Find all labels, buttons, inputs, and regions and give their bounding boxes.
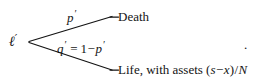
root-node-prime: ′: [15, 32, 18, 45]
death-probability-label: p′: [67, 9, 76, 24]
outcome-life-label: Life, with assets (s−x)/N: [118, 63, 247, 76]
outcome-life-prefix: Life, with assets: [118, 62, 206, 77]
death-probability-prime: ′: [74, 8, 77, 19]
life-probability-rhs-prime: ′: [102, 39, 105, 50]
life-probability-equation: q′=1−p′: [57, 40, 105, 55]
life-probability-rhs-var: p: [95, 41, 102, 56]
death-probability-var: p: [67, 10, 74, 25]
root-node-symbol: ℓ′: [9, 33, 17, 48]
equals-sign: =: [66, 41, 80, 56]
trailing-period: .: [244, 38, 247, 51]
assets-minus-sign: −: [216, 62, 224, 77]
life-probability-lhs-var: q: [57, 41, 64, 56]
assets-var-s: s: [210, 62, 215, 77]
outcome-death-label: Death: [118, 10, 149, 23]
probability-tree-figure: ℓ′ p′ q′=1−p′ Death Life, with assets (s…: [0, 0, 261, 84]
assets-var-n: N: [239, 62, 248, 77]
